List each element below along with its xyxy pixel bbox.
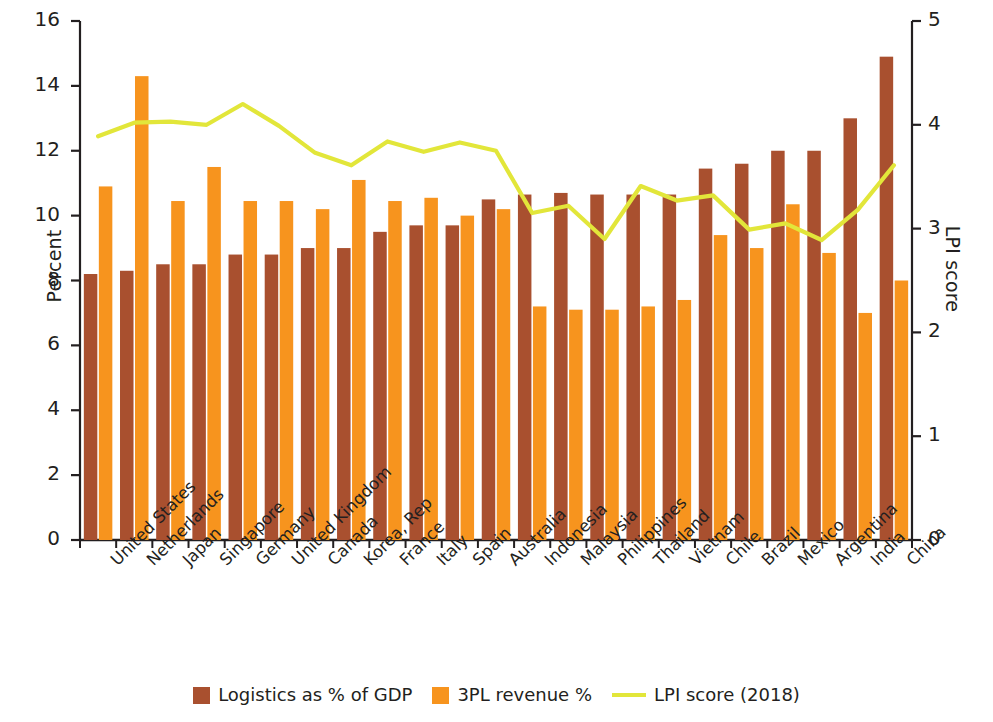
y-axis-right-tick-2: 2 xyxy=(928,318,968,342)
bar-3pl-revenue xyxy=(424,198,438,540)
bar-3pl-revenue xyxy=(569,310,583,540)
y-axis-left-tick-14: 14 xyxy=(10,72,60,96)
y-axis-right-tick-5: 5 xyxy=(928,7,968,31)
bar-3pl-revenue xyxy=(786,204,800,540)
bar-3pl-revenue xyxy=(497,209,511,540)
bar-logistics-gdp xyxy=(229,255,243,540)
bar-3pl-revenue xyxy=(461,216,475,540)
legend-label: LPI score (2018) xyxy=(654,686,800,704)
bar-logistics-gdp xyxy=(590,195,604,540)
bar-3pl-revenue xyxy=(641,306,655,540)
bar-logistics-gdp xyxy=(699,169,713,540)
bar-3pl-revenue xyxy=(99,186,113,540)
legend-label: 3PL revenue % xyxy=(457,686,592,704)
legend-line-marker xyxy=(612,693,646,697)
bar-3pl-revenue xyxy=(388,201,402,540)
bar-logistics-gdp xyxy=(301,248,315,540)
bar-logistics-gdp xyxy=(880,57,894,540)
y-axis-left-tick-16: 16 xyxy=(10,7,60,31)
chart-legend: Logistics as % of GDP3PL revenue %LPI sc… xyxy=(0,686,993,704)
bar-logistics-gdp xyxy=(446,225,460,540)
legend-item: Logistics as % of GDP xyxy=(193,686,412,704)
bar-logistics-gdp xyxy=(120,271,133,540)
bar-logistics-gdp xyxy=(807,151,821,540)
legend-color-swatch xyxy=(193,687,210,704)
legend-color-swatch xyxy=(432,687,449,704)
y-axis-left-tick-6: 6 xyxy=(10,331,60,355)
bar-logistics-gdp xyxy=(84,274,98,540)
bar-logistics-gdp xyxy=(626,195,640,540)
bar-3pl-revenue xyxy=(822,253,836,540)
y-axis-left-tick-12: 12 xyxy=(10,137,60,161)
plot-area xyxy=(0,0,993,722)
bar-3pl-revenue xyxy=(750,248,764,540)
legend-item: LPI score (2018) xyxy=(612,686,800,704)
y-axis-left-tick-10: 10 xyxy=(10,202,60,226)
legend-label: Logistics as % of GDP xyxy=(218,686,412,704)
y-axis-right-tick-3: 3 xyxy=(928,215,968,239)
y-axis-left-tick-8: 8 xyxy=(10,267,60,291)
bar-3pl-revenue xyxy=(135,76,149,540)
bar-3pl-revenue xyxy=(244,201,257,540)
bar-logistics-gdp xyxy=(482,199,496,540)
bar-logistics-gdp xyxy=(409,225,423,540)
y-axis-right-tick-4: 4 xyxy=(928,111,968,135)
bar-logistics-gdp xyxy=(554,193,568,540)
bar-3pl-revenue xyxy=(280,201,294,540)
bar-logistics-gdp xyxy=(843,118,857,540)
bar-3pl-revenue xyxy=(316,209,330,540)
bar-3pl-revenue xyxy=(858,313,872,540)
y-axis-right-tick-1: 1 xyxy=(928,422,968,446)
y-axis-left-tick-4: 4 xyxy=(10,396,60,420)
bar-logistics-gdp xyxy=(265,255,279,540)
y-axis-left-tick-0: 0 xyxy=(10,526,60,550)
bar-3pl-revenue xyxy=(714,235,728,540)
bar-logistics-gdp xyxy=(518,195,532,540)
bar-3pl-revenue xyxy=(605,310,619,540)
bar-logistics-gdp xyxy=(663,195,677,540)
bar-3pl-revenue xyxy=(895,281,909,541)
bar-logistics-gdp xyxy=(771,151,785,540)
y-axis-left-tick-2: 2 xyxy=(10,461,60,485)
bar-3pl-revenue xyxy=(533,306,547,540)
chart-container: Percent LPI score 0246810121416012345 Un… xyxy=(0,0,993,722)
legend-item: 3PL revenue % xyxy=(432,686,592,704)
